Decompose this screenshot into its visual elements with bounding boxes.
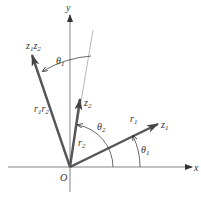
theta2-label: θ2 — [97, 121, 106, 134]
z2-label: z2 — [83, 97, 92, 110]
theta1-lower-label: θ1 — [141, 144, 149, 157]
r1-label: r1 — [130, 113, 137, 126]
theta1-upper-arc — [43, 56, 91, 71]
x-axis-label: x — [193, 162, 199, 173]
complex-product-diagram: y x O z1z2 r1r2 z2 r2 z1 r1 θ2 θ1 θ1 — [0, 0, 201, 198]
vector-z2 — [70, 99, 80, 167]
theta1-upper-label: θ1 — [56, 55, 64, 68]
origin-label: O — [60, 172, 67, 183]
r1r2-label: r1r2 — [34, 103, 49, 116]
theta1-lower-arc — [133, 136, 140, 167]
y-axis-label: y — [65, 2, 71, 13]
r2-label: r2 — [78, 137, 86, 150]
z1-label: z1 — [160, 119, 168, 132]
z1z2-label: z1z2 — [25, 40, 41, 53]
